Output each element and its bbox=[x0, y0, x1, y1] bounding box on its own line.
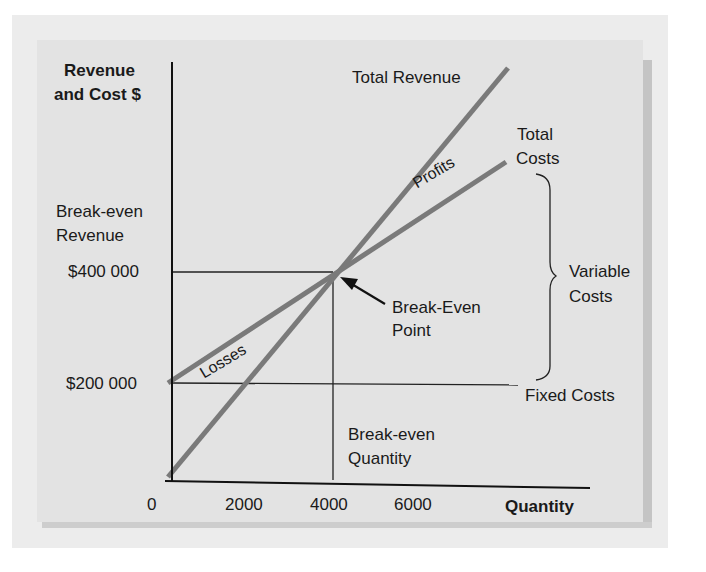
x-axis bbox=[165, 481, 590, 488]
break-even-revenue-label-2: Revenue bbox=[56, 225, 124, 247]
x-tick-0: 0 bbox=[147, 494, 156, 516]
x-tick-2000: 2000 bbox=[225, 494, 263, 516]
y-tick-200000: $200 000 bbox=[66, 373, 137, 395]
y-tick-400000: $400 000 bbox=[68, 261, 139, 283]
total-revenue-label: Total Revenue bbox=[352, 67, 461, 89]
y-axis-title-line1: Revenue bbox=[64, 60, 135, 82]
fixed-costs-line bbox=[172, 383, 518, 385]
break-even-quantity-label-1: Break-even bbox=[348, 424, 435, 446]
variable-costs-label-1: Variable bbox=[569, 261, 630, 283]
total-costs-label-2: Costs bbox=[516, 148, 559, 170]
x-axis-title: Quantity bbox=[505, 496, 574, 518]
x-tick-4000: 4000 bbox=[310, 494, 348, 516]
x-tick-6000: 6000 bbox=[394, 494, 432, 516]
variable-costs-brace bbox=[536, 174, 556, 380]
fixed-costs-label: Fixed Costs bbox=[525, 385, 615, 407]
break-even-quantity-label-2: Quantity bbox=[348, 448, 411, 470]
variable-costs-label-2: Costs bbox=[569, 286, 612, 308]
break-even-point-label-1: Break-Even bbox=[392, 297, 481, 319]
break-even-revenue-label-1: Break-even bbox=[56, 201, 143, 223]
break-even-arrow bbox=[350, 283, 385, 304]
arrowhead-icon bbox=[340, 277, 358, 290]
y-axis-title-line2: and Cost $ bbox=[54, 84, 141, 106]
total-costs-label-1: Total bbox=[517, 124, 553, 146]
break-even-point-label-2: Point bbox=[392, 320, 431, 342]
